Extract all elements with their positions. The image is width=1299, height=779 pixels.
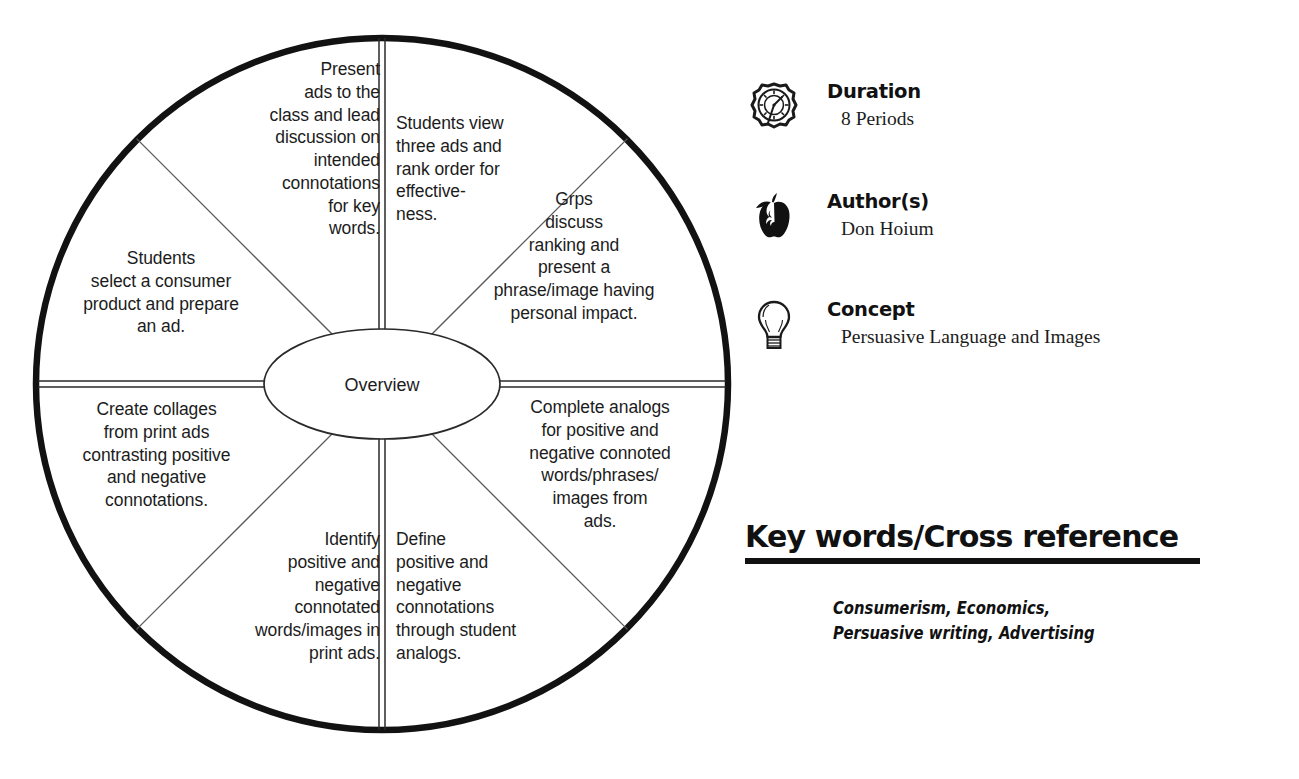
duration-value: 8 Periods bbox=[827, 108, 921, 130]
meta-row-author: Author(s) Don Hoium bbox=[745, 188, 934, 242]
stopwatch-icon bbox=[745, 78, 803, 132]
lightbulb-icon bbox=[745, 296, 803, 352]
meta-row-concept: Concept Persuasive Language and Images bbox=[745, 296, 1100, 352]
duration-label: Duration bbox=[827, 80, 921, 103]
apple-icon-glyph bbox=[749, 190, 799, 242]
author-value: Don Hoium bbox=[827, 218, 934, 240]
author-label: Author(s) bbox=[827, 190, 934, 213]
meta-row-duration: Duration 8 Periods bbox=[745, 78, 921, 132]
keywords-value: Consumerism, Economics, Persuasive writi… bbox=[833, 596, 1143, 646]
keywords-heading: Key words/Cross reference bbox=[745, 522, 1217, 558]
lightbulb-icon-glyph bbox=[749, 298, 799, 352]
wheel-diagram: Overview Present ads to the class and le… bbox=[0, 0, 770, 779]
wheel-segment-identify-connotated: Identify positive and negative connotate… bbox=[214, 528, 380, 665]
meta-body-author: Author(s) Don Hoium bbox=[803, 188, 934, 240]
keywords-divider bbox=[745, 558, 1200, 564]
concept-value: Persuasive Language and Images bbox=[827, 326, 1100, 348]
keywords-section: Key words/Cross reference Consumerism, E… bbox=[745, 522, 1217, 646]
wheel-segment-complete-analogs: Complete analogs for positive and negati… bbox=[505, 396, 695, 533]
apple-icon bbox=[745, 188, 803, 242]
meta-body-concept: Concept Persuasive Language and Images bbox=[803, 296, 1100, 348]
stopwatch-icon-glyph bbox=[749, 80, 799, 132]
info-panel: Duration 8 Periods Author(s) Don Hoium bbox=[745, 0, 1299, 779]
wheel-segment-define-connotations: Define positive and negative connotation… bbox=[396, 528, 548, 665]
wheel-center-label: Overview bbox=[252, 375, 512, 396]
wheel-segment-select-product: Students select a consumer product and p… bbox=[42, 247, 280, 338]
wheel-segment-present-ads: Present ads to the class and lead discus… bbox=[232, 58, 380, 240]
wheel-segment-grps-discuss: Grps discuss ranking and present a phras… bbox=[470, 188, 678, 325]
concept-label: Concept bbox=[827, 298, 1100, 321]
wheel-segment-create-collages: Create collages from print ads contrasti… bbox=[44, 398, 269, 512]
meta-body-duration: Duration 8 Periods bbox=[803, 78, 921, 130]
